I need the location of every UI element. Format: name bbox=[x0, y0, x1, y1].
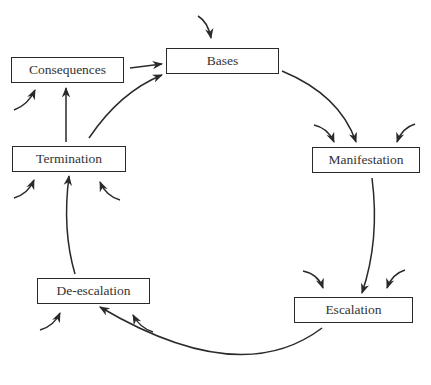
edge-bases-to-manifestation bbox=[282, 71, 356, 142]
input-arrow-de-escalation-left bbox=[40, 313, 60, 330]
node-label: Bases bbox=[207, 53, 239, 69]
input-arrow-escalation-left bbox=[303, 271, 323, 288]
node-bases: Bases bbox=[166, 48, 279, 74]
node-label: Consequences bbox=[29, 62, 106, 78]
node-de-escalation: De-escalation bbox=[37, 278, 150, 304]
node-escalation: Escalation bbox=[294, 297, 413, 323]
node-label: Termination bbox=[36, 151, 102, 167]
edge-de-escalation-to-termination bbox=[67, 176, 75, 274]
node-termination: Termination bbox=[12, 146, 126, 172]
input-arrow-manifestation-left bbox=[314, 125, 334, 142]
node-manifestation: Manifestation bbox=[312, 147, 420, 173]
node-consequences: Consequences bbox=[11, 57, 124, 83]
node-label: De-escalation bbox=[56, 283, 130, 299]
edge-termination-to-bases bbox=[89, 75, 162, 138]
node-label: Manifestation bbox=[329, 152, 404, 168]
node-label: Escalation bbox=[325, 302, 381, 318]
input-arrow-bases bbox=[198, 16, 211, 38]
input-arrow-consequences bbox=[14, 90, 35, 110]
input-arrow-manifestation-right bbox=[397, 124, 415, 142]
input-arrow-escalation-right bbox=[387, 270, 405, 288]
edge-escalation-to-de-escalation bbox=[100, 307, 322, 355]
edge-consequences-to-bases bbox=[130, 64, 162, 68]
input-arrow-termination-left bbox=[14, 180, 34, 198]
input-arrow-termination-right bbox=[100, 182, 120, 200]
edge-manifestation-to-escalation bbox=[362, 178, 374, 293]
